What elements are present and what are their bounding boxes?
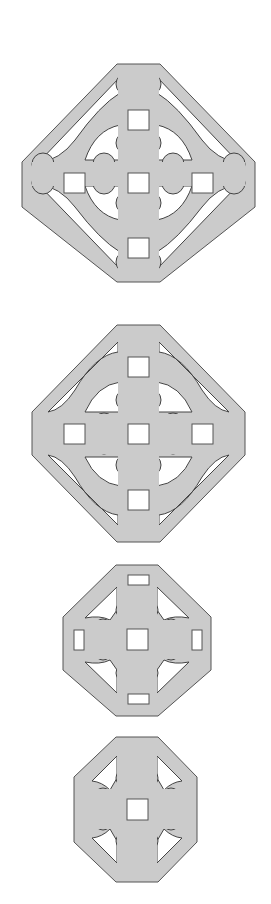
tile-2-hole-center xyxy=(128,424,149,444)
tile-1-hole-center xyxy=(128,173,149,193)
tile-3-hole-center xyxy=(127,629,148,650)
tile-3-slot-bottom xyxy=(128,694,149,704)
tile-3-slot-top xyxy=(128,575,149,585)
tile-1-hole-left xyxy=(64,173,85,193)
tile-1-hole-right xyxy=(192,173,213,193)
tile-1-hole-bottom xyxy=(128,238,149,258)
tile-2-hole-left xyxy=(64,424,85,444)
tile-3-slot-right xyxy=(192,630,202,650)
tile-2-hole-right xyxy=(192,424,213,444)
tile-3-slot-left xyxy=(74,630,84,650)
tile-1-hole-top xyxy=(128,110,149,130)
pattern-canvas xyxy=(0,0,271,904)
tile-2-hole-bottom xyxy=(128,490,149,510)
tile-3 xyxy=(63,565,211,716)
tile-4 xyxy=(74,737,197,882)
tile-2 xyxy=(32,325,245,542)
tile-4-hole-center xyxy=(127,799,148,820)
tile-1 xyxy=(22,64,255,282)
tile-2-hole-top xyxy=(128,357,149,377)
